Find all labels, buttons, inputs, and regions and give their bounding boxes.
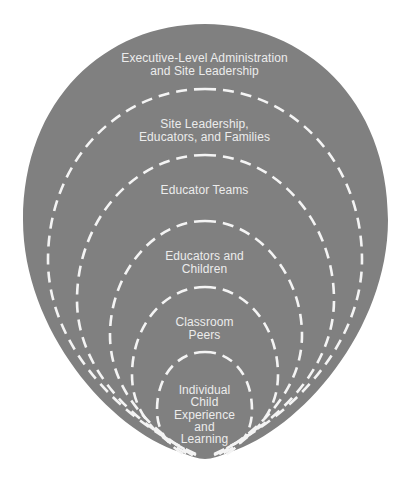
nested-rings-diagram: Executive-Level Administration and Site … [0,0,409,486]
label-individual-child: Individual Child Experience and Learning [0,384,409,445]
label-line: Children [0,263,409,276]
label-line: Peers [0,329,409,342]
label-executive-level: Executive-Level Administration and Site … [0,52,409,78]
label-line: Child [0,396,409,408]
label-educators-children: Educators and Children [0,250,409,276]
label-line: Educators, and Families [0,131,409,144]
label-line: Learning [0,433,409,445]
label-line: and Site Leadership [0,65,409,78]
label-site-leadership: Site Leadership, Educators, and Families [0,118,409,144]
label-line: Educator Teams [0,184,409,197]
label-classroom-peers: Classroom Peers [0,316,409,342]
label-educator-teams: Educator Teams [0,184,409,197]
